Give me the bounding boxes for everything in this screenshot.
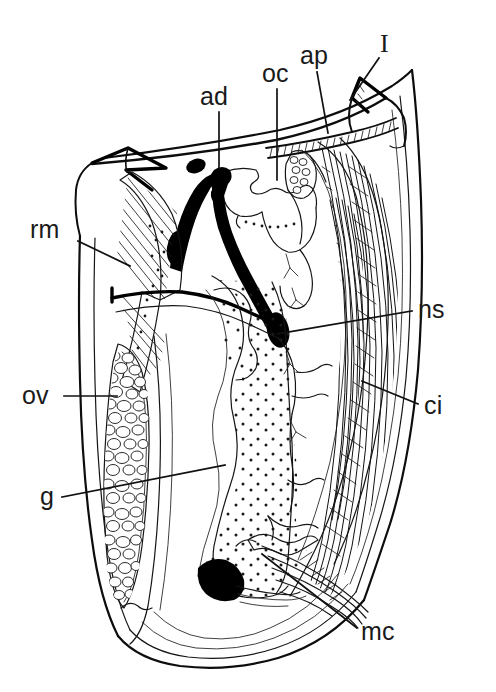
label-antenna-one: I: [380, 29, 389, 58]
label-rm: rm: [30, 215, 60, 243]
label-g: g: [40, 482, 54, 510]
anatomical-figure: ad oc ap I rm ns ci ov g mc: [0, 0, 496, 692]
label-ns: ns: [418, 295, 445, 323]
label-ad: ad: [200, 82, 228, 110]
label-mc: mc: [361, 617, 395, 645]
figure-canvas: ad oc ap I rm ns ci ov g mc: [0, 0, 496, 692]
gut-region: [190, 270, 320, 610]
ovary-region: [102, 334, 172, 644]
cirri-region: [285, 138, 402, 604]
leader-ap: [317, 72, 328, 133]
leader-ns: [277, 311, 412, 334]
leader-I: [350, 58, 379, 100]
label-ci: ci: [424, 391, 442, 419]
label-oc: oc: [262, 59, 289, 87]
leader-ci: [362, 381, 418, 404]
label-ap: ap: [300, 41, 328, 69]
label-ov: ov: [22, 381, 49, 409]
leader-rm: [78, 241, 130, 266]
